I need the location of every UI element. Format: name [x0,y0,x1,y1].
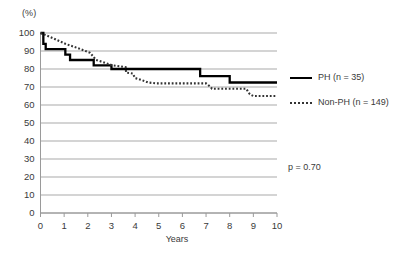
y-tick-label-70: 70 [9,81,35,92]
legend-item-non-ph: Non-PH (n = 149) [290,97,389,107]
y-tick-label-20: 20 [9,171,35,182]
y-tick-label-0: 0 [9,207,35,218]
x-tick-label-2: 2 [78,220,98,231]
legend-line-solid-icon [290,73,312,82]
survival-curve-figure: (%) Years PH (n = 35) Non-PH (n = 149) p… [0,0,399,256]
legend-label-ph: PH (n = 35) [318,72,364,82]
x-tick-label-3: 3 [101,220,121,231]
y-tick-label-90: 90 [9,45,35,56]
series-line-ph [41,33,278,83]
x-tick-label-7: 7 [196,220,216,231]
legend-item-ph: PH (n = 35) [290,72,364,82]
x-tick-label-8: 8 [220,220,240,231]
legend-line-dotted-icon [290,98,312,107]
x-tick-label-10: 10 [267,220,287,231]
y-tick-label-80: 80 [9,63,35,74]
x-tick-label-5: 5 [149,220,169,231]
x-tick-label-9: 9 [243,220,263,231]
y-tick-label-100: 100 [9,27,35,38]
plot-canvas [0,0,399,256]
x-axis-title: Years [137,234,217,244]
x-tick-label-1: 1 [54,220,74,231]
y-tick-label-10: 10 [9,189,35,200]
x-tick-label-6: 6 [172,220,192,231]
x-tick-label-4: 4 [125,220,145,231]
legend-label-non-ph: Non-PH (n = 149) [318,97,389,107]
x-tick-label-0: 0 [31,220,51,231]
y-tick-label-30: 30 [9,153,35,164]
y-tick-label-50: 50 [9,117,35,128]
y-tick-label-60: 60 [9,99,35,110]
p-value-annotation: p = 0.70 [288,162,321,172]
y-tick-label-40: 40 [9,135,35,146]
